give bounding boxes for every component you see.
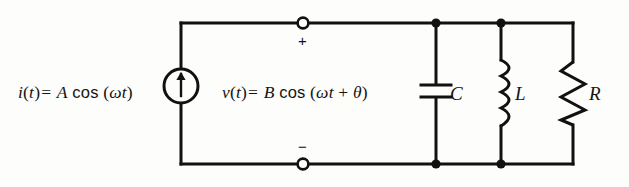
voltage-cos: cos <box>279 83 305 101</box>
positive-terminal-node <box>298 18 309 29</box>
capacitor-label: C <box>450 84 463 103</box>
voltage-equals: = <box>247 82 259 102</box>
junction-dot-capacitor-bottom <box>431 159 440 168</box>
positive-polarity-mark: + <box>298 33 307 48</box>
voltage-amplitude: B <box>264 82 275 102</box>
port-voltage-expression: v(t)= B cos (ωt + θ) <box>222 84 368 102</box>
negative-polarity-mark: − <box>298 139 307 154</box>
resistor-zigzag <box>561 62 585 125</box>
inductor-label: L <box>515 84 526 103</box>
voltage-t: t <box>329 82 334 102</box>
inductor-coil <box>501 60 509 126</box>
circuit-diagram-figure: i(t)= A cos (ωt) v(t)= B cos (ωt + θ) + … <box>0 0 629 187</box>
voltage-close-paren: ) <box>362 82 368 102</box>
junction-dot-inductor-top <box>496 18 505 27</box>
current-amplitude: A <box>57 82 68 102</box>
junction-dot-capacitor-top <box>431 18 440 27</box>
junction-dot-inductor-bottom <box>496 159 505 168</box>
current-omega: ω <box>109 82 122 102</box>
current-cos: cos <box>72 83 98 101</box>
voltage-omega: ω <box>316 82 329 102</box>
voltage-symbol: v <box>222 82 230 102</box>
current-source-expression: i(t)= A cos (ωt) <box>18 84 133 102</box>
current-equals: = <box>40 82 52 102</box>
voltage-theta: θ <box>353 82 362 102</box>
voltage-plus: + <box>338 82 348 102</box>
resistor-label: R <box>589 84 601 103</box>
negative-terminal-node <box>298 159 309 170</box>
current-close-paren: ) <box>127 82 133 102</box>
